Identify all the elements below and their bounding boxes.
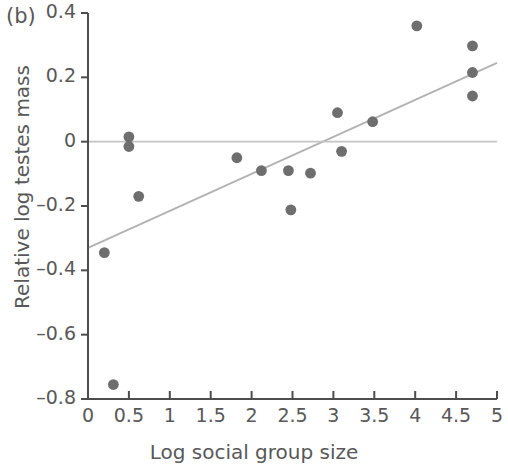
y-axis-tick-label: 0.4: [46, 0, 76, 22]
y-axis-tick-label: –0.6: [36, 322, 76, 344]
data-point: [285, 204, 296, 215]
data-point: [411, 20, 422, 31]
data-point: [467, 40, 478, 51]
data-point: [123, 131, 134, 142]
data-point: [133, 191, 144, 202]
plot-area: [0, 0, 508, 474]
data-point: [336, 146, 347, 157]
regression-line: [88, 63, 497, 248]
data-point: [123, 141, 134, 152]
y-axis-tick-label: –0.2: [36, 193, 76, 215]
y-axis-tick-label: 0.2: [46, 64, 76, 86]
y-axis-tick-label: 0: [64, 129, 76, 151]
y-axis-tick-label: –0.4: [36, 257, 76, 279]
scatter-plot-figure: (b) Relative log testes mass Log social …: [0, 0, 508, 474]
data-point: [99, 247, 110, 258]
data-point: [108, 379, 119, 390]
data-point: [256, 165, 267, 176]
data-point: [467, 91, 478, 102]
data-point: [332, 107, 343, 118]
data-point: [283, 165, 294, 176]
data-point: [231, 152, 242, 163]
data-point: [467, 67, 478, 78]
data-point: [367, 116, 378, 127]
x-axis-tick-label: 5: [467, 404, 508, 426]
data-point: [305, 168, 316, 179]
